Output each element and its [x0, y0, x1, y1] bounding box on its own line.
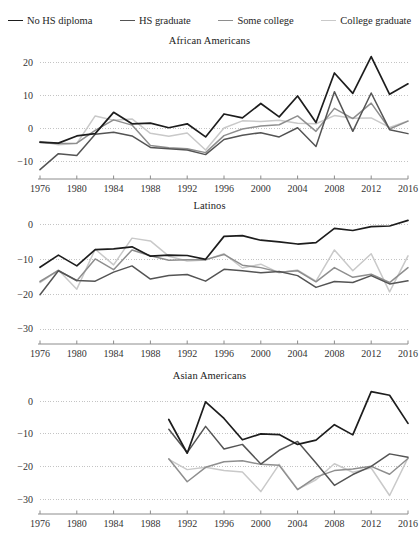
y-axis-tick-label: 20 [23, 57, 33, 68]
x-axis-tick-label: 2008 [324, 348, 344, 359]
legend-item-some-college: Some college [218, 15, 293, 26]
y-axis-tick-label: 0 [28, 123, 33, 134]
x-axis-tick-label: 2004 [288, 183, 308, 194]
y-axis-tick-label: −10 [17, 254, 33, 265]
x-axis-tick-label: 2004 [288, 348, 308, 359]
legend-label-hs-graduate: HS graduate [139, 15, 191, 26]
x-axis-tick-label: 1992 [177, 183, 197, 194]
x-axis-tick-label: 2000 [251, 183, 271, 194]
legend-label-some-college: Some college [237, 15, 293, 26]
chart-panel-latinos: Latinos 0−10−20−301976198019841988199219… [0, 198, 419, 363]
x-axis-tick-label: 2012 [361, 348, 381, 359]
legend-swatch-some-college [218, 20, 233, 21]
x-axis-tick-label: 2016 [398, 518, 418, 529]
y-axis-tick-label: −10 [17, 156, 33, 167]
x-axis-tick-label: 2000 [251, 348, 271, 359]
series-line-some-college [40, 250, 408, 283]
legend-item-college-graduate: College graduate [321, 15, 411, 26]
x-axis-tick-label: 1976 [30, 183, 50, 194]
x-axis-tick-label: 2016 [398, 183, 418, 194]
legend-item-hs-graduate: HS graduate [120, 15, 191, 26]
legend-label-college-graduate: College graduate [340, 15, 411, 26]
x-axis-tick-label: 1992 [177, 518, 197, 529]
x-axis-tick-label: 1984 [104, 183, 124, 194]
y-axis-tick-label: 0 [28, 396, 33, 407]
x-axis-tick-label: 1996 [214, 348, 234, 359]
x-axis-tick-label: 1988 [140, 518, 160, 529]
legend-item-no-hs-diploma: No HS diploma [8, 15, 92, 26]
x-axis-tick-label: 2012 [361, 183, 381, 194]
x-axis-tick-label: 2000 [251, 518, 271, 529]
x-axis-tick-label: 1984 [104, 348, 124, 359]
series-line-college-graduate [40, 238, 408, 292]
x-axis-tick-label: 1984 [104, 518, 124, 529]
chart-panel-asian-americans: Asian Americans 0−10−20−3019761980198419… [0, 368, 419, 540]
y-axis-tick-label: 10 [23, 90, 33, 101]
plot-area: 0−10−20−30197619801984198819921996200020… [0, 368, 419, 540]
x-axis-tick-label: 1988 [140, 183, 160, 194]
legend-label-no-hs-diploma: No HS diploma [27, 15, 92, 26]
x-axis-tick-label: 2008 [324, 518, 344, 529]
x-axis-tick-label: 1980 [67, 348, 87, 359]
chart-panel-african-americans: African Americans 20100−1019761980198419… [0, 33, 419, 198]
legend-swatch-college-graduate [321, 20, 336, 21]
x-axis-tick-label: 1976 [30, 518, 50, 529]
legend-swatch-hs-graduate [120, 20, 135, 21]
plot-area: 0−10−20−30197619801984198819921996200020… [0, 198, 419, 363]
x-axis-tick-label: 2008 [324, 183, 344, 194]
plot-area: 20100−1019761980198419881992199620002004… [0, 33, 419, 198]
series-line-no-hs-diploma [40, 220, 408, 267]
y-axis-tick-label: −30 [17, 494, 33, 505]
x-axis-tick-label: 1996 [214, 183, 234, 194]
x-axis-tick-label: 1980 [67, 518, 87, 529]
x-axis-tick-label: 1992 [177, 348, 197, 359]
x-axis-tick-label: 2016 [398, 348, 418, 359]
x-axis-tick-label: 1976 [30, 348, 50, 359]
legend-swatch-no-hs-diploma [8, 20, 23, 21]
series-line-some-college [169, 458, 408, 489]
x-axis-tick-label: 1996 [214, 518, 234, 529]
chart-legend: No HS diploma HS graduate Some college C… [0, 8, 419, 32]
y-axis-tick-label: −20 [17, 289, 33, 300]
y-axis-tick-label: −10 [17, 428, 33, 439]
x-axis-tick-label: 1980 [67, 183, 87, 194]
y-axis-tick-label: −20 [17, 461, 33, 472]
x-axis-tick-label: 2012 [361, 518, 381, 529]
x-axis-tick-label: 2004 [288, 518, 308, 529]
y-axis-tick-label: 0 [28, 219, 33, 230]
x-axis-tick-label: 1988 [140, 348, 160, 359]
y-axis-tick-label: −30 [17, 323, 33, 334]
